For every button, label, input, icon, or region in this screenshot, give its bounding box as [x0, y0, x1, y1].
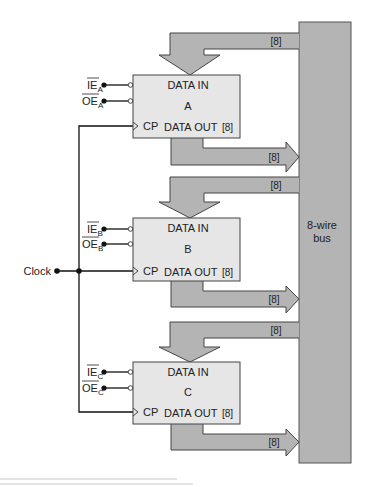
clock-label: Clock	[23, 265, 51, 277]
inversion-bubble-icon	[128, 370, 133, 375]
width-label-b: [8]	[222, 267, 233, 278]
clock-input-dot	[54, 268, 60, 274]
clock-wiring: Clock	[23, 126, 133, 412]
width-label-a: [8]	[222, 122, 233, 133]
out-bus-width-c: [8]	[268, 437, 279, 448]
register-name-c: C	[184, 386, 192, 398]
register-a: DATA IN A CP DATA OUT [8] IEA OEA	[82, 75, 240, 138]
ie-label-a: IEA	[87, 79, 103, 94]
in-bus-width-b: [8]	[270, 180, 281, 191]
register-b-input-path: [8]	[159, 177, 299, 218]
inversion-bubble-icon	[128, 83, 133, 88]
data-in-label-a: DATA IN	[167, 79, 208, 91]
register-b-output-path: [8]	[171, 281, 299, 313]
inversion-bubble-icon	[128, 386, 133, 391]
inversion-bubble-icon	[128, 242, 133, 247]
register-name-a: A	[184, 100, 192, 112]
register-c-output-path: [8]	[171, 424, 299, 456]
bus: 8-wire bus	[299, 22, 351, 463]
data-out-label-c: DATA OUT	[164, 407, 218, 419]
in-bus-width-c: [8]	[270, 325, 281, 336]
oe-label-b: OEB	[82, 238, 103, 253]
register-name-b: B	[184, 243, 191, 255]
register-a-output-path: [8]	[171, 138, 299, 172]
cp-label-c: CP	[143, 406, 158, 418]
register-c-input-path: [8]	[159, 322, 299, 362]
in-bus-width-a: [8]	[270, 36, 281, 47]
cp-label-a: CP	[143, 120, 158, 132]
inversion-bubble-icon	[128, 99, 133, 104]
out-bus-width-b: [8]	[268, 294, 279, 305]
data-in-label-c: DATA IN	[167, 366, 208, 378]
data-out-label-a: DATA OUT	[164, 121, 218, 133]
inversion-bubble-icon	[128, 227, 133, 232]
data-in-label-b: DATA IN	[167, 222, 208, 234]
width-label-c: [8]	[222, 408, 233, 419]
register-bus-diagram: 8-wire bus [8] [8] [8] [8] [8] [8] Clock	[0, 0, 370, 487]
ie-label-b: IEB	[87, 223, 103, 238]
bus-label-line2: bus	[313, 232, 331, 244]
data-out-label-b: DATA OUT	[164, 266, 218, 278]
register-c: DATA IN C CP DATA OUT [8] IEC OEC	[82, 362, 240, 424]
oe-label-c: OEC	[82, 382, 104, 397]
out-bus-width-a: [8]	[268, 152, 279, 163]
register-a-input-path: [8]	[159, 33, 299, 75]
cp-label-b: CP	[143, 265, 158, 277]
bus-label-line1: 8-wire	[307, 219, 337, 231]
clock-junction-dot	[76, 268, 82, 274]
ie-label-c: IEC	[87, 366, 103, 381]
oe-label-a: OEA	[82, 95, 104, 110]
